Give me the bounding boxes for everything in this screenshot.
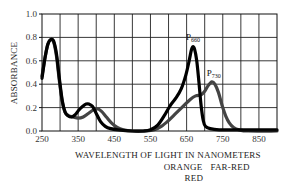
y-tick-label: 0.8 [26, 32, 38, 42]
absorbance-chart: 0.00.20.40.60.81.0 250350450550650750850… [0, 0, 292, 185]
x-tick-label: 750 [216, 134, 230, 144]
region-label-far-red: FAR-RED [210, 162, 250, 172]
series-line-p730 [42, 40, 277, 132]
x-axis-ticks: 250350450550650750850 [35, 134, 266, 144]
y-tick-label: 0.2 [26, 103, 37, 113]
series-label-p660: P660 [186, 32, 200, 43]
series-label-p730: P730 [207, 68, 221, 79]
region-label-red: RED [185, 173, 204, 183]
x-tick-label: 550 [144, 134, 158, 144]
y-tick-label: 0.4 [26, 79, 38, 89]
region-label-orange: ORANGE [164, 162, 203, 172]
y-axis-ticks: 0.00.20.40.60.81.0 [26, 9, 42, 136]
x-tick-label: 350 [71, 134, 85, 144]
y-axis-label: ABSORBANCE [9, 41, 19, 104]
curves [42, 39, 277, 131]
y-tick-label: 0.6 [26, 56, 38, 66]
x-tick-label: 850 [252, 134, 266, 144]
region-labels: ORANGEFAR-REDRED [164, 162, 250, 183]
x-tick-label: 650 [180, 134, 194, 144]
x-axis-label: WAVELENGTH OF LIGHT IN NANOMETERS [75, 150, 261, 160]
y-tick-label: 1.0 [26, 9, 38, 19]
x-tick-label: 450 [108, 134, 122, 144]
x-tick-label: 250 [35, 134, 49, 144]
